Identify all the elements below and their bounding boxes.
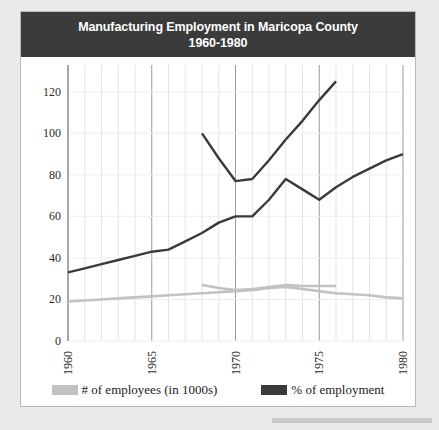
legend-label-percent: % of employment xyxy=(291,382,384,398)
plot-area: 020406080100120 19601965197019751980 xyxy=(21,57,415,408)
bottom-accent-bar xyxy=(272,418,432,423)
x-axis-tick-labels: 19601965197019751980 xyxy=(61,351,410,375)
page-title: Manufacturing Employment in Maricopa Cou… xyxy=(78,19,358,35)
chart-panel: Manufacturing Employment in Maricopa Cou… xyxy=(20,11,416,407)
legend-swatch-employees xyxy=(52,385,78,395)
chart-figure: Manufacturing Employment in Maricopa Cou… xyxy=(0,0,439,430)
chart-title-bar: Manufacturing Employment in Maricopa Cou… xyxy=(21,12,415,57)
x-tick-label: 1965 xyxy=(145,351,159,375)
x-tick-label: 1970 xyxy=(229,351,243,375)
legend-swatch-percent xyxy=(261,385,287,395)
y-tick-label: 0 xyxy=(55,334,61,348)
y-tick-label: 40 xyxy=(49,251,61,265)
x-tick-label: 1975 xyxy=(312,351,326,375)
legend-item-percent: % of employment xyxy=(261,382,384,398)
y-tick-label: 80 xyxy=(49,168,61,182)
y-tick-label: 60 xyxy=(49,209,61,223)
y-tick-label: 120 xyxy=(43,85,61,99)
line-chart-svg: 020406080100120 19601965197019751980 xyxy=(21,57,415,408)
y-tick-label: 20 xyxy=(49,292,61,306)
y-tick-label: 100 xyxy=(43,126,61,140)
x-tick-label: 1960 xyxy=(61,351,75,375)
legend-label-employees: # of employees (in 1000s) xyxy=(82,382,218,398)
y-axis-tick-labels: 020406080100120 xyxy=(43,85,61,348)
chart-legend: # of employees (in 1000s) % of employmen… xyxy=(21,382,415,398)
x-tick-label: 1980 xyxy=(396,351,410,375)
chart-subtitle: 1960-1980 xyxy=(189,35,248,51)
legend-item-employees: # of employees (in 1000s) xyxy=(52,382,218,398)
